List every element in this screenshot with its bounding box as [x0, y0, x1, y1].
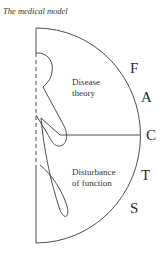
region-label-line: theory — [72, 88, 100, 99]
arc-letter-t: T — [141, 168, 150, 183]
region-label-line: Disease — [72, 77, 100, 88]
region-label-line: Disturbance — [72, 167, 115, 178]
upper-figure-shape — [36, 53, 67, 146]
lower-figure-wedge — [40, 118, 68, 216]
arc-letter-s: S — [130, 201, 138, 216]
region-label-line: of function — [72, 178, 115, 189]
arc-letter-f: F — [130, 61, 138, 76]
outer-arc — [36, 28, 140, 243]
arc-letter-a: A — [141, 90, 152, 105]
arc-letter-c: C — [146, 128, 156, 143]
region-disease-theory: Disease theory — [72, 77, 100, 98]
medical-model-diagram — [0, 0, 165, 255]
region-disturbance-of-function: Disturbance of function — [72, 167, 115, 188]
